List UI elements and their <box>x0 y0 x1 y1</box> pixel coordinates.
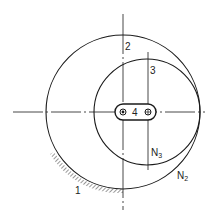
label-n3: N3 <box>151 147 162 159</box>
pivot-left-dot <box>122 111 125 114</box>
label-link-3: 3 <box>150 65 156 76</box>
label-ground-1: 1 <box>75 185 81 196</box>
mechanism-diagram: 4 2 3 N3 N2 1 <box>0 0 208 222</box>
label-n2: N2 <box>177 170 188 182</box>
label-link-4: 4 <box>132 107 138 118</box>
label-link-2: 2 <box>125 41 131 52</box>
